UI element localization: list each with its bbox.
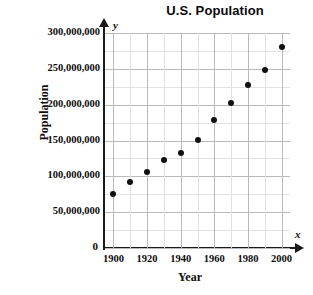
- gridline-vertical: [265, 33, 266, 248]
- x-tick-label: 2000: [262, 253, 302, 264]
- y-tick-label: 50,000,000: [4, 205, 100, 216]
- chart-title: U.S. Population: [140, 3, 290, 18]
- x-axis-arrow-icon: [295, 243, 304, 253]
- y-tick-label: 300,000,000: [4, 26, 100, 37]
- gridline-vertical: [147, 33, 148, 248]
- x-axis-variable-label: x: [295, 228, 301, 240]
- data-point: [279, 44, 285, 50]
- y-axis-title: Population: [37, 53, 52, 173]
- gridline-vertical: [282, 33, 283, 248]
- y-tick-label: 100,000,000: [4, 169, 100, 180]
- y-tick-label: 0: [0, 240, 98, 252]
- chart-figure: U.S. Population y x 050,000,000100,000,0…: [0, 0, 313, 295]
- gridline-vertical: [130, 33, 131, 248]
- gridline-vertical: [231, 33, 232, 248]
- gridline-vertical: [248, 33, 249, 248]
- gridline-vertical: [113, 33, 114, 248]
- data-point: [127, 179, 133, 185]
- data-point: [228, 100, 234, 106]
- data-point: [161, 157, 167, 163]
- gridline-horizontal: [105, 248, 290, 249]
- y-tick-label: 200,000,000: [4, 98, 100, 109]
- gridline-vertical: [181, 33, 182, 248]
- y-axis-variable-label: y: [113, 19, 118, 31]
- data-point: [262, 67, 268, 73]
- data-point: [195, 137, 201, 143]
- gridline-vertical: [214, 33, 215, 248]
- gridline-vertical: [164, 33, 165, 248]
- data-point: [144, 169, 150, 175]
- data-point: [110, 191, 116, 197]
- plot-area: [105, 33, 290, 248]
- y-axis-arrow-icon: [99, 18, 109, 27]
- y-tick-label: 150,000,000: [4, 134, 100, 145]
- data-point: [178, 150, 184, 156]
- y-tick-label: 250,000,000: [4, 62, 100, 73]
- x-axis-title: Year: [150, 270, 230, 285]
